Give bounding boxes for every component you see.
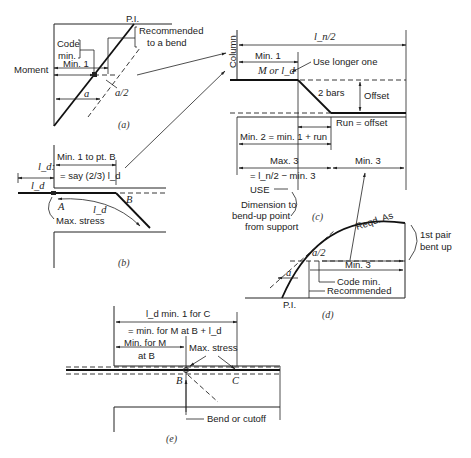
- min2-label: Min. 2 = min. 1 + run: [240, 131, 327, 142]
- ld-min1-c-label: l_d min. 1 for C: [146, 308, 211, 319]
- max-stress-label: Max. stress: [56, 215, 105, 226]
- use-label: USE: [250, 184, 270, 195]
- column-label: Column: [227, 35, 238, 68]
- ld-curve-label: l_d: [93, 204, 107, 215]
- min1-to-b-label: Min. 1 to pt. B: [57, 151, 116, 162]
- min1-label: Min. 1: [63, 58, 89, 69]
- offset-label: Offset: [364, 90, 390, 101]
- caption-d: (d): [322, 309, 334, 321]
- leader-line-b-c: [125, 71, 225, 168]
- at-b-label: at B: [138, 350, 155, 361]
- panel-b: l_d: l_d Min. 1 to pt. B = say (2/3) l_d…: [18, 145, 166, 269]
- figure-canvas: P.I. Recommended to a bend Code min. Min…: [0, 0, 471, 458]
- code-label: Code: [57, 38, 80, 49]
- min-for-m-label: Min. for M: [124, 337, 166, 348]
- moment-label: Moment: [14, 64, 49, 75]
- a-label: a: [84, 88, 89, 99]
- use-longer-label: Use longer one: [313, 56, 377, 67]
- caption-c: (c): [312, 211, 324, 223]
- run-offset-label: Run = offset: [336, 117, 388, 128]
- bent-up-label: bent up: [420, 241, 452, 252]
- ld-left-label: l_d: [31, 180, 45, 191]
- reqd-as-label: Reqd. As: [354, 209, 394, 231]
- panel-e: l_d min. 1 for C = min. for M at B + l_d…: [66, 306, 280, 445]
- min3-label-c: Min. 3: [355, 155, 381, 166]
- b-label-e: B: [176, 375, 183, 386]
- caption-a: (a): [118, 119, 130, 131]
- c-label-e: C: [232, 375, 240, 386]
- dimension-line2: bend-up point: [232, 210, 290, 221]
- max3-eq-label: = l_n/2 − min. 3: [250, 170, 315, 181]
- panel-d: Reqd. As 1st pair bent up a/2 Min. 3 a C…: [245, 173, 452, 321]
- pi-label-d: P.I.: [283, 299, 296, 310]
- a-label-d: a: [286, 267, 291, 278]
- first-pair-label: 1st pair: [420, 229, 451, 240]
- to-a-bend-label: to a bend: [147, 37, 187, 48]
- a-half-label-d: a/2: [312, 247, 326, 258]
- min-for-m-eq-label: = min. for M at B + l_d: [128, 325, 221, 336]
- panel-a: P.I. Recommended to a bend Code min. Min…: [14, 13, 203, 131]
- ln-half-label: l_n/2: [314, 31, 336, 42]
- recommended-label: Recommended: [139, 25, 203, 36]
- panel-c: Column l_n/2 Min. 1 M or l_d Use longer …: [227, 30, 406, 232]
- max3-label: Max. 3: [270, 155, 299, 166]
- b-label: B: [126, 194, 133, 205]
- dimension-line1: Dimension to: [241, 199, 296, 210]
- m-or-ld-label: M or l_d: [257, 65, 296, 76]
- recommended-label-d: Recommended: [327, 285, 391, 296]
- pi-label: P.I.: [126, 13, 139, 24]
- caption-e: (e): [166, 433, 178, 445]
- leader-line-a-c: [137, 53, 226, 75]
- min1-label-c: Min. 1: [255, 50, 281, 61]
- bend-or-cutoff-label: Bend or cutoff: [207, 413, 266, 424]
- dimension-line3: from support: [245, 221, 299, 232]
- say-label: = say (2/3) l_d: [60, 170, 120, 181]
- a-point-label: A: [57, 201, 65, 212]
- min3-label-d: Min. 3: [345, 259, 371, 270]
- a-half-label: a/2: [115, 87, 129, 98]
- ld-top-label: l_d:: [38, 161, 55, 172]
- max-stress-label-e: Max. stress: [189, 342, 238, 353]
- caption-b: (b): [118, 257, 130, 269]
- two-bars-label: 2 bars: [318, 87, 345, 98]
